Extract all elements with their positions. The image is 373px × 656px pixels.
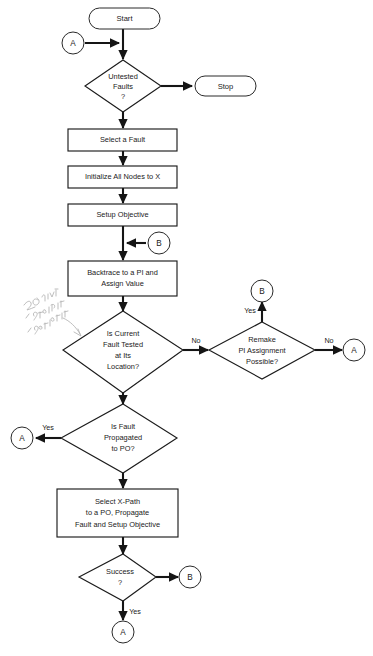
- node-fault-tested-label-4: Location?: [107, 362, 139, 371]
- node-fault-propagated-label-1: Is Fault: [111, 422, 135, 431]
- edge-label-fault-propagated-yes: Yes: [42, 423, 54, 432]
- flowchart-svg: Start A Untested Faults ? Stop Select a …: [0, 0, 373, 656]
- node-select-xpath-label-1: Select X-Path: [95, 497, 140, 506]
- connector-b-mid-label: B: [156, 239, 162, 248]
- connector-a-bottom[interactable]: A: [112, 621, 134, 643]
- node-initialize-nodes[interactable]: Initialize All Nodes to X: [68, 166, 177, 188]
- connector-a-bottom-label: A: [120, 628, 126, 637]
- node-start-label: Start: [116, 14, 133, 23]
- edge-label-fault-tested-no: No: [191, 336, 200, 345]
- node-stop[interactable]: Stop: [195, 76, 256, 96]
- edge-label-remake-pi-no: No: [324, 336, 333, 345]
- node-select-xpath[interactable]: Select X-Path to a PO, Propagate Fault a…: [57, 489, 178, 537]
- connector-b-upper-right-label: B: [259, 287, 265, 296]
- node-select-xpath-label-2: to a PO, Propagate: [86, 508, 149, 517]
- node-remake-pi-label-1: Remake: [248, 335, 276, 344]
- node-backtrace[interactable]: Backtrace to a PI and Assign Value: [68, 261, 177, 296]
- node-fault-tested-label-3: at Its: [115, 351, 131, 360]
- node-select-fault[interactable]: Select a Fault: [68, 129, 177, 151]
- node-initialize-nodes-label: Initialize All Nodes to X: [85, 172, 160, 181]
- connector-a-left[interactable]: A: [11, 427, 33, 449]
- node-success[interactable]: Success ?: [79, 554, 156, 601]
- connector-a-top[interactable]: A: [62, 32, 84, 54]
- node-backtrace-label-2: Assign Value: [101, 279, 144, 288]
- connector-a-left-label: A: [19, 434, 25, 443]
- connector-a-right[interactable]: A: [343, 339, 365, 361]
- node-select-fault-label: Select a Fault: [100, 135, 145, 144]
- node-success-label-2: ?: [118, 578, 122, 587]
- node-remake-pi[interactable]: Remake PI Assignment Possible?: [209, 322, 315, 379]
- node-remake-pi-label-2: PI Assignment: [238, 346, 285, 355]
- node-fault-propagated-label-3: to PO?: [111, 444, 134, 453]
- node-start[interactable]: Start: [89, 8, 160, 29]
- connector-b-bottom-right[interactable]: B: [179, 566, 201, 588]
- node-setup-objective[interactable]: Setup Objective: [68, 204, 177, 226]
- node-stop-label: Stop: [218, 82, 234, 91]
- node-backtrace-label-1: Backtrace to a PI and: [87, 268, 158, 277]
- node-success-label-1: Success: [106, 567, 134, 576]
- node-fault-tested[interactable]: Is Current Fault Tested at Its Location?: [63, 311, 183, 393]
- connector-b-bottom-right-label: B: [187, 573, 193, 582]
- node-fault-propagated[interactable]: Is Fault Propagated to PO?: [61, 404, 177, 473]
- node-setup-objective-label: Setup Objective: [96, 210, 148, 219]
- node-untested-faults-label-2: Faults: [113, 82, 133, 91]
- node-fault-propagated-label-2: Propagated: [104, 433, 142, 442]
- edge-label-success-yes: Yes: [129, 607, 141, 616]
- node-untested-faults-label-1: Untested: [108, 72, 138, 81]
- node-remake-pi-label-3: Possible?: [246, 357, 278, 366]
- node-fault-tested-label-2: Fault Tested: [103, 340, 143, 349]
- node-untested-faults-label-3: ?: [121, 92, 125, 101]
- node-select-xpath-label-3: Fault and Setup Objective: [75, 520, 160, 529]
- node-untested-faults[interactable]: Untested Faults ?: [85, 60, 161, 112]
- connector-b-mid[interactable]: B: [148, 232, 170, 254]
- connector-a-right-label: A: [351, 346, 357, 355]
- connector-a-top-label: A: [70, 39, 76, 48]
- node-fault-tested-label-1: Is Current: [107, 329, 139, 338]
- edge-label-remake-pi-yes: Yes: [244, 306, 256, 315]
- flowchart-canvas: Start A Untested Faults ? Stop Select a …: [0, 0, 373, 656]
- connector-b-upper-right[interactable]: B: [251, 280, 273, 302]
